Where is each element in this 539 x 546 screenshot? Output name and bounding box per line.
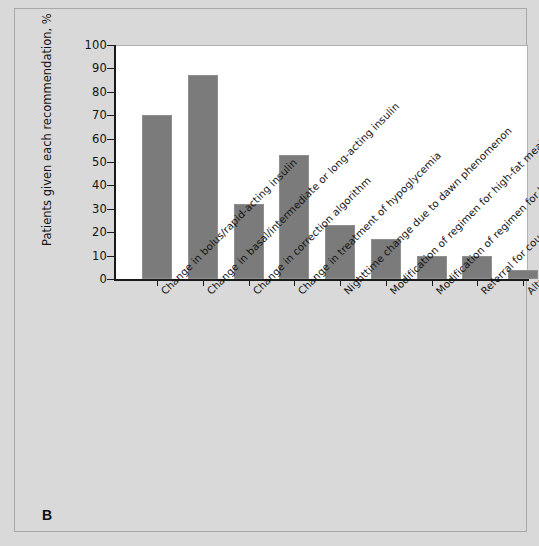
x-axis-tick	[249, 281, 250, 286]
y-axis-tick	[107, 256, 115, 257]
x-axis-tick	[432, 281, 433, 286]
y-axis-tick-label: 20	[79, 225, 107, 239]
y-axis-tick-label: 30	[79, 202, 107, 216]
y-axis-labels: 0102030405060708090100	[70, 9, 107, 546]
y-axis-tick	[107, 68, 115, 69]
y-axis-tick	[107, 162, 115, 163]
y-axis-tick-label: 60	[79, 132, 107, 146]
x-axis-tick	[386, 281, 387, 286]
y-axis-line	[114, 45, 116, 281]
figure-frame: 0102030405060708090100 Patients given ea…	[14, 8, 527, 532]
x-axis-tick	[523, 281, 524, 286]
bar	[508, 270, 538, 279]
figure-panel-b: 0102030405060708090100 Patients given ea…	[0, 0, 539, 546]
y-axis-tick	[107, 92, 115, 93]
x-axis-tick	[294, 281, 295, 286]
y-axis-tick-label: 50	[79, 155, 107, 169]
y-axis-tick-label: 80	[79, 85, 107, 99]
y-axis-tick	[107, 45, 115, 46]
x-axis-tick	[157, 281, 158, 286]
plot-area	[115, 45, 528, 280]
y-axis-tick	[107, 115, 115, 116]
x-axis-tick	[477, 281, 478, 286]
y-axis-title: Patients given each recommendation, %	[40, 46, 54, 246]
x-axis-tick	[340, 281, 341, 286]
y-axis-tick	[107, 209, 115, 210]
panel-label: B	[42, 507, 52, 523]
y-axis-tick-label: 70	[79, 108, 107, 122]
bar	[142, 115, 172, 279]
y-axis-tick-label: 90	[79, 61, 107, 75]
y-axis-tick	[107, 139, 115, 140]
y-axis-tick-label: 10	[79, 249, 107, 263]
y-axis-tick	[107, 185, 115, 186]
y-axis-tick	[107, 279, 115, 280]
y-axis-tick	[107, 232, 115, 233]
y-axis-tick-label: 40	[79, 178, 107, 192]
x-axis-tick	[203, 281, 204, 286]
y-axis-tick-label: 100	[79, 38, 107, 52]
y-axis-tick-label: 0	[79, 272, 107, 286]
